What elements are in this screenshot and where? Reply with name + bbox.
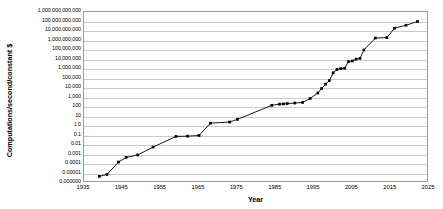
plot-area [83,11,428,182]
data-point-marker [343,67,346,70]
data-point-marker [320,87,323,90]
data-point-marker [328,79,331,82]
data-point-marker [228,121,231,124]
data-point-marker [362,49,365,52]
data-point-marker [393,27,396,30]
y-tick-label: 1,000 [3,94,81,99]
data-point-marker [416,20,419,23]
data-point-marker [106,173,109,176]
data-point-marker [347,60,350,63]
y-tick-label: 10 [3,113,81,118]
data-point-marker [385,36,388,39]
x-tick-label: 2025 [408,184,443,190]
data-point-marker [286,102,289,105]
data-point-marker [359,57,362,60]
x-tick-label: 1945 [101,184,141,190]
x-tick-label: 1975 [216,184,256,190]
chart-container: Computations/second/constant $ 1,000,000… [0,0,443,209]
y-tick-label: 100,000 [3,75,81,80]
data-point-marker [278,103,281,106]
data-point-marker [117,161,120,164]
x-tick-label: 1985 [255,184,295,190]
y-tick-label: 100,000,000 [3,46,81,51]
data-point-marker [282,103,285,106]
y-tick-label: 0.0001 [3,160,81,165]
y-tick-label: 10,000,000,000 [3,27,81,32]
data-series-line [84,12,429,183]
data-point-marker [136,154,139,157]
series-polyline [99,22,417,177]
data-point-marker [336,68,339,71]
y-tick-label: 100 [3,103,81,108]
data-point-marker [293,102,296,105]
data-point-marker [270,104,273,107]
x-tick-label: 1935 [63,184,103,190]
data-point-marker [316,92,319,95]
y-tick-label: 10,000,000 [3,56,81,61]
x-tick-label: 1965 [178,184,218,190]
x-axis-title: Year [83,195,428,204]
data-point-marker [339,67,342,70]
data-point-marker [309,97,312,100]
data-point-marker [405,24,408,27]
y-tick-label: 0.01 [3,141,81,146]
data-point-marker [332,71,335,74]
y-tick-label: 10,000 [3,84,81,89]
y-axis-tick-labels: 1,000,000,000,000100,000,000,00010,000,0… [0,0,81,209]
y-tick-label: 0.00001 [3,170,81,175]
x-tick-label: 2015 [370,184,410,190]
y-tick-label: 1,000,000 [3,65,81,70]
data-point-marker [236,118,239,121]
data-point-marker [186,135,189,138]
y-tick-label: 1,000,000,000,000 [3,8,81,13]
y-tick-label: 1,000,000,000 [3,37,81,42]
x-tick-label: 2005 [331,184,371,190]
data-point-marker [125,156,128,159]
x-tick-label: 1995 [293,184,333,190]
y-tick-label: 0.001 [3,151,81,156]
data-point-marker [301,101,304,104]
data-point-marker [355,58,358,61]
y-tick-label: 1.0 [3,122,81,127]
data-point-marker [324,83,327,86]
data-point-marker [152,146,155,149]
data-point-marker [175,135,178,138]
data-point-marker [351,60,354,63]
y-tick-label: 100,000,000,000 [3,18,81,23]
data-point-marker [374,37,377,40]
title-remnant [130,0,310,5]
data-point-marker [98,175,101,178]
data-point-marker [198,134,201,137]
y-tick-label: 0.1 [3,132,81,137]
x-tick-label: 1955 [140,184,180,190]
data-point-marker [209,122,212,125]
